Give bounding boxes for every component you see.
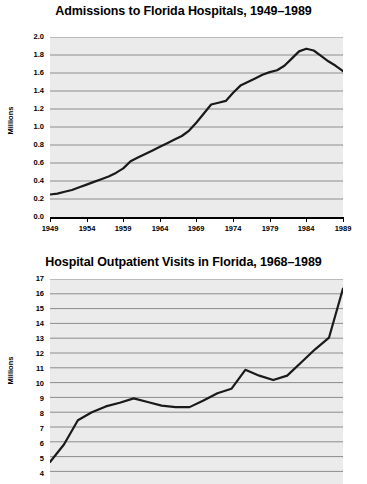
chart-admissions-ytick-10: 0.0 — [20, 213, 44, 221]
chart-admissions-xtickmark-0 — [50, 218, 51, 222]
chart-outpatient-ytick-3: 14 — [22, 320, 44, 328]
chart-admissions-xtickmark-7 — [306, 218, 307, 222]
chart-admissions-plot — [50, 37, 343, 217]
chart-admissions-xtick-6: 1979 — [252, 225, 288, 233]
chart-admissions-xtickmark-3 — [160, 218, 161, 222]
chart-admissions-xtick-1: 1954 — [69, 225, 105, 233]
chart-admissions-xtick-3: 1964 — [142, 225, 178, 233]
chart-admissions-xaxis-line — [50, 217, 344, 219]
chart-outpatient-ytick-1: 16 — [22, 290, 44, 298]
chart-outpatient-ytick-5: 12 — [22, 350, 44, 358]
chart-outpatient-title: Hospital Outpatient Visits in Florida, 1… — [0, 255, 367, 269]
chart-outpatient-series-line — [50, 289, 343, 463]
chart-admissions-xtickmark-6 — [270, 218, 271, 222]
chart-admissions-xtickmark-5 — [233, 218, 234, 222]
chart-outpatient-ytick-10: 7 — [22, 425, 44, 433]
chart-admissions-ytick-5: 1.0 — [20, 123, 44, 131]
chart-admissions-xtick-2: 1959 — [105, 225, 141, 233]
chart-outpatient-ytick-7: 10 — [22, 380, 44, 388]
chart-admissions-ytick-2: 1.6 — [20, 69, 44, 77]
chart-outpatient-ytick-0: 17 — [22, 275, 44, 283]
chart-outpatient-ylabel: Millions — [6, 351, 15, 391]
chart-outpatient-gridlines — [50, 279, 343, 471]
chart-outpatient: Hospital Outpatient Visits in Florida, 1… — [0, 250, 367, 484]
chart-admissions-ytick-0: 2.0 — [20, 33, 44, 41]
chart-admissions-ytick-7: 0.6 — [20, 159, 44, 167]
chart-outpatient-plot-svg — [50, 279, 343, 484]
chart-outpatient-ytick-2: 15 — [22, 305, 44, 313]
chart-admissions-series-line — [50, 49, 343, 195]
chart-admissions-xtick-7: 1984 — [288, 225, 324, 233]
chart-admissions-xtickmark-8 — [343, 218, 344, 222]
chart-admissions-xtickmark-4 — [196, 218, 197, 222]
chart-admissions-ytick-8: 0.4 — [20, 177, 44, 185]
chart-admissions-xtickmark-2 — [123, 218, 124, 222]
chart-admissions-xtick-8: 1989 — [325, 225, 361, 233]
chart-admissions-ytick-9: 0.2 — [20, 195, 44, 203]
chart-outpatient-plot — [50, 279, 343, 484]
chart-admissions-xtick-5: 1974 — [215, 225, 251, 233]
chart-admissions-xtickmark-1 — [87, 218, 88, 222]
chart-outpatient-ytick-13: 4 — [22, 470, 44, 478]
chart-admissions-title: Admissions to Florida Hospitals, 1949–19… — [0, 4, 367, 18]
chart-admissions-xtick-0: 1949 — [32, 225, 68, 233]
chart-admissions-ytick-4: 1.2 — [20, 105, 44, 113]
chart-admissions: Admissions to Florida Hospitals, 1949–19… — [0, 0, 367, 250]
chart-outpatient-ytick-9: 8 — [22, 410, 44, 418]
chart-outpatient-ytick-6: 11 — [22, 365, 44, 373]
chart-admissions-gridlines — [50, 37, 343, 199]
chart-admissions-ytick-3: 1.4 — [20, 87, 44, 95]
chart-outpatient-ytick-4: 13 — [22, 335, 44, 343]
chart-admissions-ytick-1: 1.8 — [20, 51, 44, 59]
chart-admissions-ylabel: Millions — [6, 101, 15, 141]
chart-outpatient-ytick-12: 5 — [22, 455, 44, 463]
chart-outpatient-ytick-8: 9 — [22, 395, 44, 403]
chart-admissions-xtick-4: 1969 — [178, 225, 214, 233]
chart-admissions-plot-svg — [50, 37, 343, 217]
chart-outpatient-ytick-11: 6 — [22, 440, 44, 448]
chart-admissions-ytick-6: 0.8 — [20, 141, 44, 149]
